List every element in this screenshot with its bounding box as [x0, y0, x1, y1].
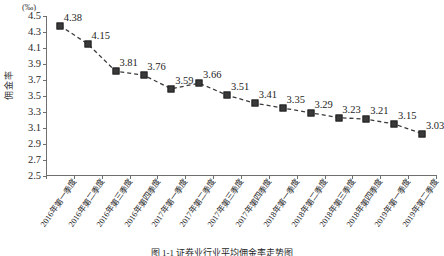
data-point-marker	[307, 109, 314, 116]
data-point-label: 4.15	[92, 31, 110, 42]
chart-figure: (‰) 佣金率 4.54.34.13.93.73.53.33.12.92.72.…	[0, 0, 444, 256]
data-point-label: 3.21	[370, 106, 388, 117]
data-point-marker	[279, 105, 286, 112]
data-point-marker	[251, 100, 258, 107]
y-axis-tick-label: 3.9	[28, 59, 41, 70]
data-point-label: 3.03	[426, 120, 444, 131]
y-axis-tick-label: 3.1	[28, 123, 41, 134]
y-axis-tick-label: 4.1	[28, 43, 41, 54]
data-point-marker	[335, 114, 342, 121]
y-axis-tick-label: 2.9	[28, 139, 41, 150]
y-axis-tick-label: 3.5	[28, 91, 41, 102]
data-point-label: 3.81	[119, 58, 137, 69]
x-axis-tick	[436, 175, 437, 179]
data-point-label: 4.38	[64, 12, 82, 23]
data-point-marker	[363, 116, 370, 123]
y-axis-tick-label: 3.7	[28, 75, 41, 86]
data-point-marker	[391, 121, 398, 128]
data-point-label: 3.76	[147, 62, 165, 73]
data-point-marker	[419, 130, 426, 137]
data-point-label: 3.51	[231, 82, 249, 93]
y-axis-tick-label: 3.3	[28, 107, 41, 118]
data-point-label: 3.41	[259, 90, 277, 101]
data-point-label: 3.15	[398, 111, 416, 122]
data-point-marker	[56, 22, 63, 29]
data-point-label: 3.23	[342, 104, 360, 115]
figure-caption: 图 1-1 证券业行业平均佣金率走势图	[0, 246, 444, 256]
y-axis-tick-label: 4.5	[28, 11, 41, 22]
x-axis-category-labels: 2016年第一季度2016年第二季度2016年第三季度2016年第四季度2017…	[46, 178, 436, 240]
data-point-label: 3.35	[287, 95, 305, 106]
data-point-marker	[84, 41, 91, 48]
data-point-marker	[196, 80, 203, 87]
data-point-marker	[112, 68, 119, 75]
data-point-label: 3.66	[203, 70, 221, 81]
data-point-label: 3.29	[314, 99, 332, 110]
data-point-marker	[140, 72, 147, 79]
plot-area: 4.54.34.13.93.73.53.33.12.92.72.5 4.384.…	[46, 16, 436, 176]
y-axis-title: 佣金率	[2, 61, 15, 109]
y-axis-tick-label: 2.5	[28, 171, 41, 182]
y-axis-tick-label: 4.3	[28, 27, 41, 38]
data-point-marker	[168, 85, 175, 92]
data-point-marker	[224, 92, 231, 99]
data-point-label: 3.59	[175, 75, 193, 86]
y-axis-tick-label: 2.7	[28, 155, 41, 166]
